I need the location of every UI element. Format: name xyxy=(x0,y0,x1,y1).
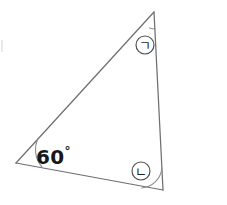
angle-marker-bottom-right: ㄴ xyxy=(132,162,150,180)
angle-marker-bottom-right-glyph: ㄴ xyxy=(135,164,147,179)
angle-value-text: 60 xyxy=(36,145,64,169)
angle-marker-top: ㄱ xyxy=(136,36,154,54)
triangle-diagram-svg: ㄱ ㄴ xyxy=(0,0,227,205)
geometry-figure-canvas: ㄱ ㄴ 60° xyxy=(0,0,227,205)
angle-label-bottom-left: 60° xyxy=(36,146,71,167)
degree-symbol: ° xyxy=(64,144,70,158)
angle-marker-top-glyph: ㄱ xyxy=(139,38,151,53)
